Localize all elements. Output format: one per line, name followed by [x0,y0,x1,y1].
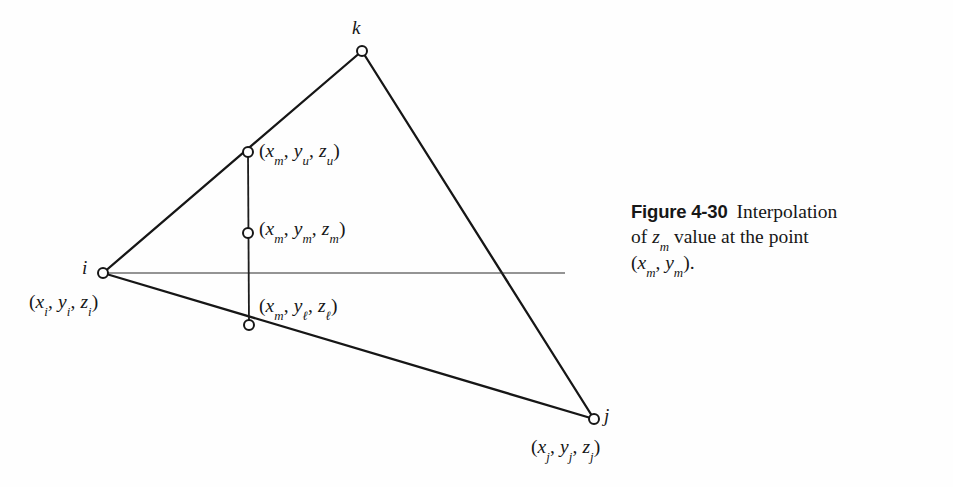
coord-sub-z: ℓ [326,309,331,323]
coord-open-paren: ( [259,295,266,316]
caption-var-z: z [652,226,660,247]
coord-open-paren: ( [259,140,266,161]
coord-close-paren: ) [333,140,340,161]
vertex-label-j: j [604,406,609,425]
coord-var-y: y [560,436,569,457]
coord-label-i: (xi, yi, zi) [29,292,98,312]
coord-sub-z: i [88,305,92,319]
coord-sub-z: j [590,450,594,464]
vertex-label-i: i [82,258,87,277]
coord-open-paren: ( [259,218,266,239]
caption-line2-suffix: value at the point [669,226,809,247]
coord-sub-x: m [274,309,283,323]
caption-sub-z: m [660,240,669,254]
coord-open-paren: ( [29,291,36,312]
coord-label-upper-point: (xm, yu, zu) [259,141,340,161]
coord-sub-x: m [274,154,283,168]
edge-i-k [103,51,362,273]
coord-var-y: y [58,291,67,312]
caption-sub-x: m [646,266,655,280]
coord-sub-x: j [546,450,550,464]
coord-sub-y: u [302,154,309,168]
coord-label-lower-point: (xm, yℓ, zℓ) [259,296,338,316]
coord-var-z: z [322,218,330,239]
coord-close-paren: ) [331,295,338,316]
figure-page: k i j (xi, yi, zi) (xj, yj, zj) (xm, yu,… [0,0,953,487]
vertex-marker-j [589,414,599,424]
coord-open-paren: ( [531,436,538,457]
coord-sub-y: j [569,450,573,464]
vertex-marker-i [98,268,108,278]
caption-sub-y: m [674,266,683,280]
coord-sub-y: i [67,305,71,319]
coord-label-j: (xj, yj, zj) [531,437,600,457]
coord-sub-z: m [330,232,339,246]
caption-line3-sep: , [655,252,665,273]
vertex-label-k: k [352,18,360,37]
caption-var-y: y [665,252,674,273]
coord-sub-z: u [327,154,334,168]
caption-line2-prefix: of [631,226,652,247]
edge-k-j [362,51,594,419]
coord-sub-y: ℓ [302,309,307,323]
edge-i-j [103,273,594,419]
coord-label-mid-point: (xm, ym, zm) [259,219,346,239]
coord-sub-y: m [302,232,311,246]
coord-var-z: z [582,436,590,457]
figure-caption: Figure 4-30Interpolationof zm value at t… [631,199,941,275]
coord-var-z: z [80,291,88,312]
vertex-marker-k [357,46,367,56]
coord-close-paren: ) [594,436,601,457]
figure-number: Figure 4-30 [631,201,728,222]
coord-close-paren: ) [339,218,346,239]
point-marker-lower [244,320,254,330]
point-marker-upper [243,147,253,157]
coord-sub-x: i [44,305,48,319]
caption-var-x: x [638,252,647,273]
caption-line1: Interpolation [737,201,838,222]
point-marker-mid [243,228,253,238]
coord-var-z: z [318,295,326,316]
coord-close-paren: ) [92,291,99,312]
coord-sub-x: m [274,232,283,246]
caption-line3-close: ). [683,252,694,273]
coord-var-z: z [319,140,327,161]
